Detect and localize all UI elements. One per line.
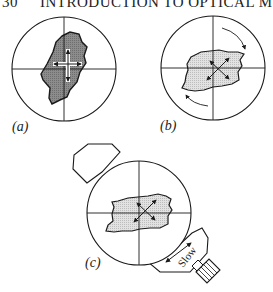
figure-optical-extinction: (a) (b) Slow <box>0 0 273 292</box>
rotation-arrow-icon <box>222 28 245 49</box>
rotation-arrow-icon <box>186 95 208 106</box>
panel-b: (b) <box>160 16 265 134</box>
panel-a: (a) <box>12 17 116 135</box>
panel-label-a: (a) <box>12 119 29 135</box>
panel-label-c: (c) <box>85 255 101 271</box>
panel-label-b: (b) <box>160 118 177 134</box>
accessory-knob-icon <box>192 259 220 283</box>
panel-c: Slow (c) <box>73 144 220 283</box>
